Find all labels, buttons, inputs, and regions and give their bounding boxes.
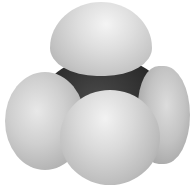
hydrogen-atom-top xyxy=(50,2,152,76)
methane-model: methane molecule space-filling model xyxy=(0,0,195,185)
hydrogen-atom-front xyxy=(60,90,160,185)
